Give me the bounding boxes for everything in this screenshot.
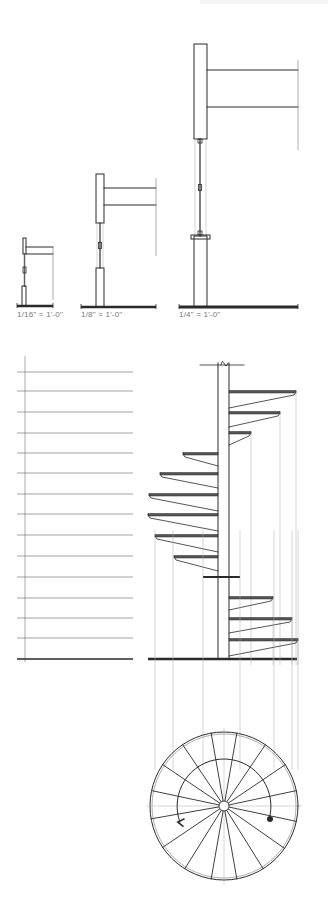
tread-underside — [148, 515, 218, 531]
lower-post — [22, 286, 26, 306]
scale-1-16 — [17, 238, 53, 308]
tread-top — [229, 412, 280, 415]
stair-tread — [229, 412, 280, 666]
scale-label-1-16: 1/16" = 1'-0" — [17, 310, 63, 319]
tread-underside — [174, 557, 218, 571]
tread-spoke — [163, 765, 220, 804]
tread-underside — [229, 433, 251, 445]
tread-spoke — [163, 809, 220, 848]
tread-spoke — [211, 811, 223, 879]
tread-spoke — [228, 809, 285, 849]
tread-spoke — [151, 807, 219, 819]
tread-top — [160, 473, 218, 476]
stair-tread — [148, 514, 218, 532]
stair-drawing-canvas — [0, 0, 328, 923]
stair-tread — [229, 639, 298, 666]
tread-underside — [229, 640, 298, 656]
tread-top — [229, 597, 273, 600]
tread-spoke — [152, 791, 219, 805]
tread-top — [183, 453, 218, 456]
tread-spoke — [229, 791, 296, 805]
tread-spoke — [229, 807, 296, 821]
scale-1-4 — [179, 44, 298, 309]
tread-underside — [229, 413, 280, 427]
lower-post — [194, 236, 207, 307]
scale-label-1-4: 1/4" = 1'-0" — [179, 310, 220, 319]
upper-post — [96, 174, 104, 223]
tread-top — [148, 514, 218, 517]
tread-underside — [183, 454, 218, 466]
tread-spoke — [227, 810, 264, 869]
tread-top — [229, 391, 296, 394]
tread-spoke — [228, 765, 285, 804]
spiral-stair-elevation — [148, 361, 298, 770]
tread-underside — [229, 392, 296, 408]
upper-post — [23, 238, 26, 254]
elevation-height-scale — [17, 356, 133, 662]
tread-spoke — [183, 745, 222, 802]
tread-spoke — [225, 733, 237, 801]
tread-spoke — [227, 745, 266, 802]
tread-spoke — [185, 810, 222, 869]
tread-underside — [160, 474, 218, 488]
lower-post — [96, 268, 104, 307]
tread-top — [155, 535, 218, 538]
stair-tread — [183, 453, 218, 467]
start-point-dot-icon — [267, 816, 273, 822]
stair-tread — [160, 473, 218, 489]
stair-tread — [174, 556, 218, 572]
spiral-stair-plan — [146, 728, 302, 884]
tread-underside — [155, 536, 218, 552]
stair-tread — [155, 535, 218, 553]
tread-underside — [229, 619, 292, 633]
stair-tread — [149, 494, 218, 512]
scale-label-1-8: 1/8" = 1'-0" — [81, 310, 122, 319]
upper-post — [194, 44, 207, 139]
scale-comparison-drawings — [17, 44, 298, 309]
tread-top — [229, 618, 292, 621]
tread-top — [229, 639, 298, 642]
scale-1-8 — [81, 174, 156, 309]
center-post-hub — [219, 801, 229, 811]
tread-spoke — [211, 733, 223, 801]
tread-underside — [149, 495, 218, 511]
tread-top — [229, 432, 251, 435]
tread-spoke — [225, 811, 237, 879]
tread-top — [149, 494, 218, 497]
tread-top — [174, 556, 218, 559]
